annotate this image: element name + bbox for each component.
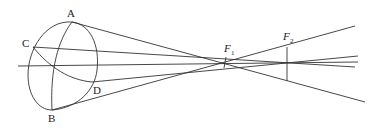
label-d: D (93, 84, 101, 96)
label-b: B (48, 112, 55, 124)
label-f1: F (223, 42, 231, 54)
label-c: C (22, 37, 29, 49)
label-f2-sub: 2 (290, 37, 294, 45)
label-f2: F (282, 30, 290, 42)
meridian-cd (33, 47, 92, 82)
ray-d (92, 56, 358, 82)
optics-diagram: A C B D F 1 F 2 (0, 0, 380, 128)
label-f1-sub: 1 (231, 49, 235, 57)
label-a: A (67, 7, 75, 19)
